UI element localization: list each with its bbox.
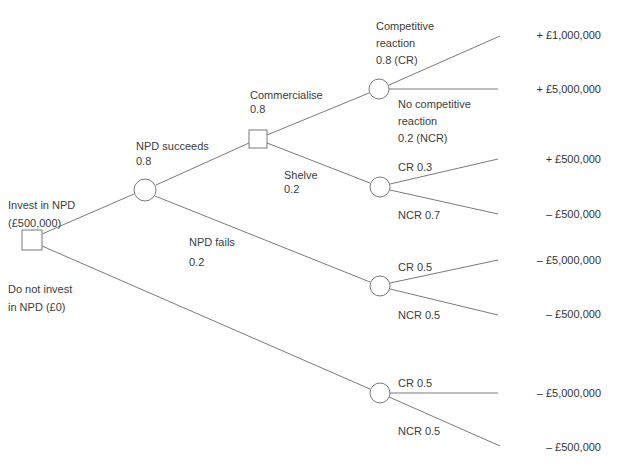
- label-invest-line2: (£500,000): [8, 214, 75, 232]
- label-invest: Invest in NPD (£500,000): [8, 196, 75, 232]
- label-shelve-line1: Shelve: [284, 168, 318, 182]
- label-invest-line1: Invest in NPD: [8, 196, 75, 214]
- label-no-invest-ncr: NCR 0.5: [398, 422, 440, 440]
- payoff-3: + £500,000: [491, 152, 601, 166]
- payoff-1: + £1,000,000: [491, 28, 601, 42]
- label-commercialise: Commercialise 0.8: [250, 88, 323, 116]
- label-cr-probability: 0.8 (CR): [376, 52, 434, 69]
- label-cr-line2: reaction: [376, 35, 434, 52]
- label-npd-succeeds-line1: NPD succeeds: [136, 139, 209, 154]
- chance-node-reaction: [369, 79, 389, 99]
- chance-node-npd: [134, 179, 156, 201]
- payoff-8: – £500,000: [491, 440, 601, 454]
- label-no-invest-line2: in NPD (£0): [8, 298, 72, 316]
- decision-node-commercialise: [249, 130, 267, 148]
- decision-node-invest: [22, 230, 42, 250]
- label-npd-fails-line1: NPD fails: [189, 232, 235, 252]
- label-npd-fails: NPD fails 0.2: [189, 232, 235, 272]
- label-no-competitive-reaction: No competitive reaction 0.2 (NCR): [398, 96, 471, 147]
- label-commercialise-probability: 0.8: [250, 102, 323, 116]
- label-npd-succeeds-probability: 0.8: [136, 154, 209, 169]
- branch-shelve: [267, 143, 370, 183]
- label-fails-ncr: NCR 0.5: [398, 306, 440, 324]
- label-no-invest-cr: CR 0.5: [398, 374, 432, 392]
- payoff-7: – £5,000,000: [491, 386, 601, 400]
- payoff-6: – £500,000: [491, 307, 601, 321]
- payoff-2: + £5,000,000: [491, 82, 601, 96]
- label-fails-cr: CR 0.5: [398, 258, 432, 276]
- payoff-5: – £5,000,000: [491, 253, 601, 267]
- label-npd-succeeds: NPD succeeds 0.8: [136, 139, 209, 169]
- label-commercialise-line1: Commercialise: [250, 88, 323, 102]
- label-shelve-ncr: NCR 0.7: [398, 206, 440, 224]
- label-competitive-reaction: Competitive reaction 0.8 (CR): [376, 18, 434, 69]
- chance-node-no-invest: [370, 383, 390, 403]
- label-ncr-probability: 0.2 (NCR): [398, 130, 471, 147]
- label-shelve-cr: CR 0.3: [398, 158, 432, 176]
- label-no-invest: Do not invest in NPD (£0): [8, 280, 72, 316]
- chance-node-fails: [370, 276, 390, 296]
- label-no-invest-line1: Do not invest: [8, 280, 72, 298]
- label-shelve: Shelve 0.2: [284, 168, 318, 196]
- label-ncr-line2: reaction: [398, 113, 471, 130]
- chance-node-shelve: [370, 177, 390, 197]
- branch-npd-fails: [155, 196, 370, 282]
- label-npd-fails-probability: 0.2: [189, 252, 235, 272]
- label-cr-line1: Competitive: [376, 18, 434, 35]
- payoff-4: – £500,000: [491, 207, 601, 221]
- label-ncr-line1: No competitive: [398, 96, 471, 113]
- label-shelve-probability: 0.2: [284, 182, 318, 196]
